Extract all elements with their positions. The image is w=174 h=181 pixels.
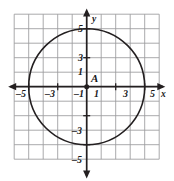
x-axis-name: x: [161, 90, 166, 100]
x-tick-label-neg1: –1: [74, 89, 84, 99]
y-axis-arrow-down: [83, 170, 90, 178]
graph-canvas: [0, 0, 174, 181]
y-tick-label-pos3: 3: [78, 53, 83, 63]
y-tick-label-neg3: –3: [72, 126, 82, 136]
y-tick-label-neg5: –5: [72, 155, 82, 165]
x-tick-label-pos1: 1: [94, 89, 99, 99]
y-tick-label-pos1: 1: [78, 67, 83, 77]
x-tick-label-neg3: –3: [45, 89, 55, 99]
y-axis-name: y: [92, 15, 96, 25]
x-tick-label-pos5: 5: [150, 89, 155, 99]
x-tick-label-pos3: 3: [123, 89, 128, 99]
y-tick-label-pos5: 5: [78, 24, 83, 34]
x-tick-label-neg5: –5: [16, 89, 26, 99]
center-point-marker: [84, 84, 89, 89]
point-label-a: A: [91, 73, 98, 84]
x-axis-arrow-left: [8, 83, 16, 90]
y-axis-arrow-up: [83, 9, 90, 17]
coordinate-plane-figure: –5 –3 –1 1 3 5 5 3 1 –3 –5 y x A: [0, 0, 174, 181]
